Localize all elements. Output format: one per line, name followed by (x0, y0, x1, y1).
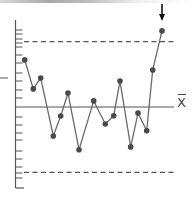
y-axis (0, 20, 24, 188)
data-point (150, 67, 156, 73)
series-line (25, 31, 162, 150)
data-point (65, 90, 71, 96)
data-point (31, 86, 37, 92)
data-point (111, 113, 117, 119)
data-point (91, 98, 97, 104)
data-point (103, 121, 109, 127)
out-of-control-arrow-icon (159, 4, 165, 21)
data-point (58, 113, 64, 119)
control-limit-lines (16, 42, 175, 173)
data-point (159, 28, 165, 34)
y-axis-ticks (16, 30, 23, 178)
sample-series (22, 28, 165, 152)
data-point (51, 133, 57, 139)
data-point (144, 128, 150, 134)
data-point (22, 57, 28, 63)
control-chart (0, 0, 195, 199)
data-point (76, 147, 82, 153)
data-point (117, 78, 123, 84)
data-point (38, 75, 44, 81)
overbar (178, 94, 186, 95)
data-point (135, 110, 141, 116)
center-line-label-text: X (177, 95, 186, 110)
arrow-head (159, 14, 165, 21)
center-line-label: X (177, 96, 186, 109)
data-point (128, 144, 134, 150)
